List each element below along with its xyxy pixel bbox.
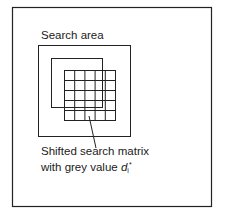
shifted-search-matrix [65, 71, 116, 121]
caption-line-2: with grey value di* [41, 158, 132, 177]
caption-line-2-text: with grey value [41, 161, 121, 173]
symbol-superscript: * [129, 161, 132, 168]
symbol-subscript: i [127, 167, 129, 174]
diagram-canvas [0, 0, 226, 217]
search-area-label: Search area [41, 29, 104, 42]
caption-line-1: Shifted search matrix [41, 145, 149, 158]
